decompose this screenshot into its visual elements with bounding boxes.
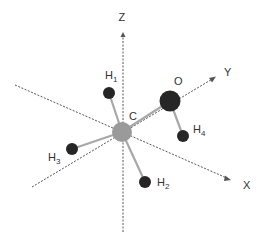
x-axis-label: X	[243, 179, 251, 191]
atom-c	[112, 122, 132, 142]
atom-h2	[139, 176, 151, 188]
atom-h4	[177, 130, 189, 142]
x-axis-arrow-icon	[224, 176, 231, 182]
atom-h3	[66, 143, 78, 155]
diagram-canvas: Z Y X C O H1 H2 H3 H4	[0, 0, 262, 243]
atom-label-h2: H2	[157, 176, 170, 191]
methanol-3d-diagram: Z Y X C O H1 H2 H3 H4	[0, 0, 262, 243]
atom-label-h3: H3	[48, 151, 61, 166]
z-axis-label: Z	[119, 11, 126, 23]
atom-o	[160, 91, 181, 112]
z-axis-arrow-icon	[121, 32, 126, 37]
y-axis-arrow-icon	[209, 77, 216, 83]
atom-label-h4: H4	[193, 123, 206, 138]
atom-h1	[103, 87, 115, 99]
y-axis-label: Y	[224, 66, 232, 78]
atoms	[66, 87, 189, 188]
atom-label-o: O	[174, 75, 183, 87]
atom-label-h1: H1	[105, 69, 118, 84]
atom-label-c: C	[129, 110, 137, 122]
